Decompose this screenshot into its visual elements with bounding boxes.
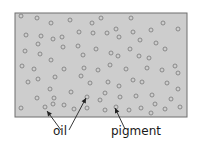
oil-label: oil [53,124,67,138]
pigment-label: pigment [111,124,161,138]
oil-pigment-diagram [0,0,199,160]
